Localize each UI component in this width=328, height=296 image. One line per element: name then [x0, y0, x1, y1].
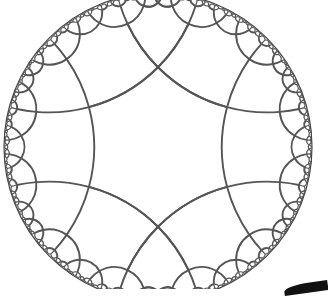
tiling-edge [280, 109, 299, 112]
tiling-edge [293, 77, 294, 79]
tiling-edge [51, 40, 55, 44]
tiling-edge [218, 6, 219, 8]
tiling-edge [172, 0, 180, 6]
tiling-edge [20, 214, 21, 215]
tiling-edge [217, 23, 237, 34]
tiling-edge [249, 30, 255, 32]
disk-boundary [4, 0, 312, 289]
tiling-edge [7, 172, 8, 173]
tiling-edge [251, 25, 252, 26]
tiling-edge [242, 19, 243, 20]
tiling-edge [283, 75, 290, 76]
tiling-edge [260, 32, 261, 33]
tiling-edge [273, 54, 275, 64]
tiling-edge [67, 34, 80, 59]
tiling-edge [16, 89, 17, 90]
tiling-edge [113, 0, 114, 1]
tiling-edge [280, 236, 281, 238]
tiling-edge [231, 281, 232, 282]
tiling-edge [43, 248, 44, 249]
tiling-edge [89, 67, 158, 107]
tiling-edge [90, 271, 100, 279]
tiling-edge [84, 278, 89, 279]
tiling-edge [295, 154, 307, 158]
tiling-edge [273, 61, 282, 64]
tiling-edge [214, 284, 215, 288]
tiling-edge [39, 49, 40, 50]
tiling-edge [289, 224, 290, 225]
tiling-edge [80, 260, 100, 271]
tiling-edge [67, 235, 80, 260]
tiling-edge [7, 126, 11, 127]
tiling-edge [265, 38, 266, 40]
tiling-edge [128, 6, 144, 24]
tiling-edge [303, 97, 304, 98]
tiling-edge [52, 36, 53, 37]
tiling-edge [261, 40, 265, 44]
tiling-edge [7, 154, 10, 158]
tiling-edge [9, 154, 21, 158]
tiling-edge [295, 136, 307, 140]
tiling-edge [64, 26, 65, 27]
tiling-edge [158, 24, 188, 67]
tiling-edge [283, 219, 290, 220]
tiling-edge [304, 103, 305, 104]
tiling-edge [25, 71, 26, 73]
tiling-edge [21, 158, 36, 182]
tiling-edge [287, 226, 289, 227]
tiling-edge [235, 14, 236, 15]
tiling-edge [219, 285, 222, 286]
tiling-edge [90, 279, 92, 283]
tiling-edge [7, 167, 11, 168]
tiling-edge [209, 6, 214, 10]
tiling-edge [227, 182, 280, 187]
tiling-edge [296, 212, 297, 213]
tiling-edge [11, 190, 12, 191]
tiling-edge [17, 87, 18, 89]
tiling-edge [17, 109, 36, 112]
tiling-edge [222, 285, 223, 286]
tiling-edge [309, 121, 310, 122]
tiling-edge [22, 217, 23, 218]
tiling-edge [5, 154, 6, 155]
tiling-edge [158, 187, 227, 227]
tiling-edge [43, 245, 47, 248]
tiling-edge [144, 3, 158, 7]
tiling-edge [305, 106, 306, 108]
tiling-edge [280, 158, 295, 182]
tiling-edge [7, 136, 10, 140]
tiling-edge [36, 54, 38, 55]
tiling-edge [40, 49, 41, 50]
tiling-edge [128, 24, 158, 67]
tiling-edge [128, 24, 158, 67]
tiling-edge [61, 30, 67, 32]
tiling-edge [107, 288, 112, 289]
tiling-edge [305, 164, 309, 167]
tiling-edge [249, 229, 273, 235]
tiling-edge [158, 227, 188, 270]
tiling-edge [299, 179, 304, 185]
tiling-edge [126, 0, 131, 1]
tiling-edge [102, 284, 107, 288]
tiling-edge [101, 288, 102, 289]
tiling-edge [190, 288, 195, 289]
tiling-edge [12, 109, 17, 115]
tiling-edge [25, 219, 32, 220]
tiling-edge [120, 0, 125, 5]
tiling-edge [304, 167, 306, 173]
tiling-edge [41, 49, 43, 54]
tiling-edge [154, 0, 158, 3]
tiling-edge [307, 178, 308, 179]
tiling-edge [261, 248, 268, 250]
tiling-edge [297, 92, 300, 96]
tiling-edge [128, 270, 144, 288]
tiling-edge [235, 272, 238, 276]
tiling-edge [40, 245, 41, 246]
tiling-edge [7, 127, 11, 130]
tiling-edge [94, 285, 97, 286]
tiling-edge [29, 89, 37, 112]
tiling-edge [43, 229, 67, 235]
tiling-edge [209, 284, 214, 288]
tiling-edge [158, 187, 227, 227]
tiling-edge [56, 262, 57, 263]
